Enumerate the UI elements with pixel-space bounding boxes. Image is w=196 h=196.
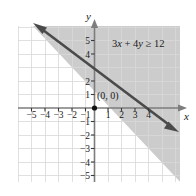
x-tick-label-1: 1	[103, 110, 113, 120]
y-tick-label-2: 2	[79, 77, 90, 87]
inequality-annotation: 3x + 4y ≥ 12	[112, 38, 165, 49]
inequality-middle: + 4	[122, 38, 138, 49]
y-tick-label-1: 1	[79, 90, 90, 100]
x-tick-label-3: 3	[130, 110, 140, 120]
x-tick-label-neg-3: −3	[52, 110, 66, 120]
y-tick-label-neg-1: −1	[79, 117, 90, 127]
x-tick-label-2: 2	[117, 110, 127, 120]
x-axis-label: x	[184, 110, 189, 122]
y-tick-label-4: 4	[79, 50, 90, 60]
y-axis-label: y	[86, 10, 91, 22]
inequality-relation-and-constant: ≥ 12	[143, 38, 165, 49]
y-tick-label-neg-4: −4	[79, 158, 90, 168]
y-tick-label-neg-3: −3	[79, 144, 90, 154]
x-tick-label-neg-5: −5	[25, 110, 39, 120]
y-tick-label-neg-2: −2	[79, 131, 90, 141]
origin-dot	[92, 105, 97, 110]
inequality-graph-figure: y x −5 −4 −3 −2 −1 1 2 3 4 5 4 2 1 −1 −2…	[0, 0, 196, 196]
x-tick-label-4: 4	[144, 110, 154, 120]
y-tick-label-5: 5	[79, 36, 90, 46]
x-tick-label-neg-4: −4	[38, 110, 52, 120]
x-tick-label-neg-2: −2	[65, 110, 79, 120]
y-tick-label-neg-5: −5	[79, 171, 90, 181]
origin-point-label: (0, 0)	[97, 90, 119, 101]
